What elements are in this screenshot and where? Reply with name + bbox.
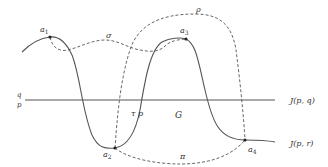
point-a3 [184, 37, 187, 40]
label-a4: a4 [248, 145, 257, 155]
point-a1 [48, 35, 51, 38]
label-frac-num: q [17, 91, 22, 99]
label-sigma: σ [106, 31, 112, 40]
label-j-pq: J(p, q) [288, 96, 315, 105]
label-a1: a1 [40, 25, 49, 35]
label-a3: a3 [180, 26, 189, 36]
label-rho: ρ [195, 5, 201, 14]
point-a2 [113, 146, 116, 149]
path-sigma [50, 37, 186, 51]
solid-curve [22, 37, 275, 148]
point-a4 [243, 138, 246, 141]
label-pi: π [179, 152, 186, 161]
diagram-canvas: a1 a3 a2 a4 σ ρ π τ p G q p J(p, q) J(p,… [0, 0, 328, 167]
label-a2: a2 [103, 150, 112, 160]
label-frac-den: p [17, 101, 22, 109]
label-tau: τ [131, 109, 136, 118]
label-p-mid: p [138, 109, 143, 118]
label-G: G [175, 110, 182, 120]
label-j-pr: J(p, r) [288, 139, 313, 148]
